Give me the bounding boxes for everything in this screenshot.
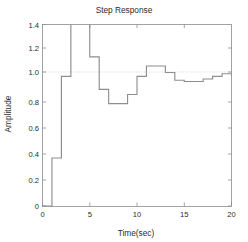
step-response-line (43, 15, 232, 206)
y-tick-label-0: 0 (35, 202, 39, 211)
y-tick-label-1-4: 1.4 (28, 21, 39, 30)
x-tick-label-15: 15 (180, 210, 188, 219)
y-tick-label-0-8: 0.8 (28, 98, 39, 107)
y-tick-labels: 0 0.2 0.4 0.6 0.8 1.0 1.2 1.4 (28, 21, 39, 211)
y-axis-label: Amplitude (3, 95, 13, 132)
y-tick-label-1-0: 1.0 (28, 68, 39, 77)
y-tick-label-0-2: 0.2 (28, 176, 39, 185)
x-axis-label: Time(sec) (118, 228, 155, 238)
x-tick-label-5: 5 (88, 210, 92, 219)
x-tick-label-10: 10 (133, 210, 141, 219)
x-tick-label-20: 20 (227, 210, 235, 219)
x-tick-label-0: 0 (40, 210, 44, 219)
x-tick-labels: 0 5 10 15 20 (40, 210, 235, 219)
figure-canvas: Step Response Amplitude Time(sec) (0, 0, 248, 242)
step-response-chart[interactable]: Step Response Amplitude Time(sec) (0, 0, 248, 242)
y-tick-label-1-2: 1.2 (28, 44, 39, 53)
y-tick-label-0-4: 0.4 (28, 150, 39, 159)
y-tick-label-0-6: 0.6 (28, 124, 39, 133)
page-title: Step Response (96, 5, 153, 15)
